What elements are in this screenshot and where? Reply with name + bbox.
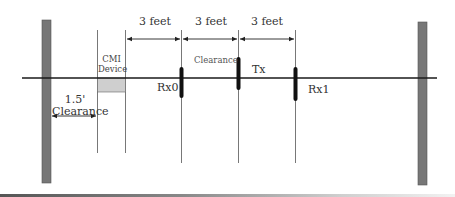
rx0-label: Rx0	[157, 82, 178, 93]
cmi-device-box	[98, 78, 126, 92]
right-wall	[418, 22, 427, 185]
bottom-divider	[0, 194, 455, 197]
antenna-clearance-label: Clearance	[194, 56, 238, 65]
cmi-device-label-line2: Device	[98, 65, 125, 75]
dimension-label-2: 3 feet	[195, 16, 227, 27]
rx1-antenna	[294, 67, 298, 101]
dimension-label-3: 3 feet	[251, 16, 283, 27]
left-wall	[42, 20, 51, 183]
wall-clearance-text: Clearance	[52, 106, 98, 118]
cmi-device-label: CMI Device	[98, 55, 125, 75]
rx0-antenna	[180, 67, 184, 98]
wall-clearance-label: 1.5' Clearance	[52, 94, 98, 117]
rx1-label: Rx1	[308, 84, 329, 95]
dimension-label-1: 3 feet	[139, 16, 171, 27]
wall-clearance-value: 1.5'	[52, 94, 98, 106]
tx-label: Tx	[252, 64, 266, 75]
